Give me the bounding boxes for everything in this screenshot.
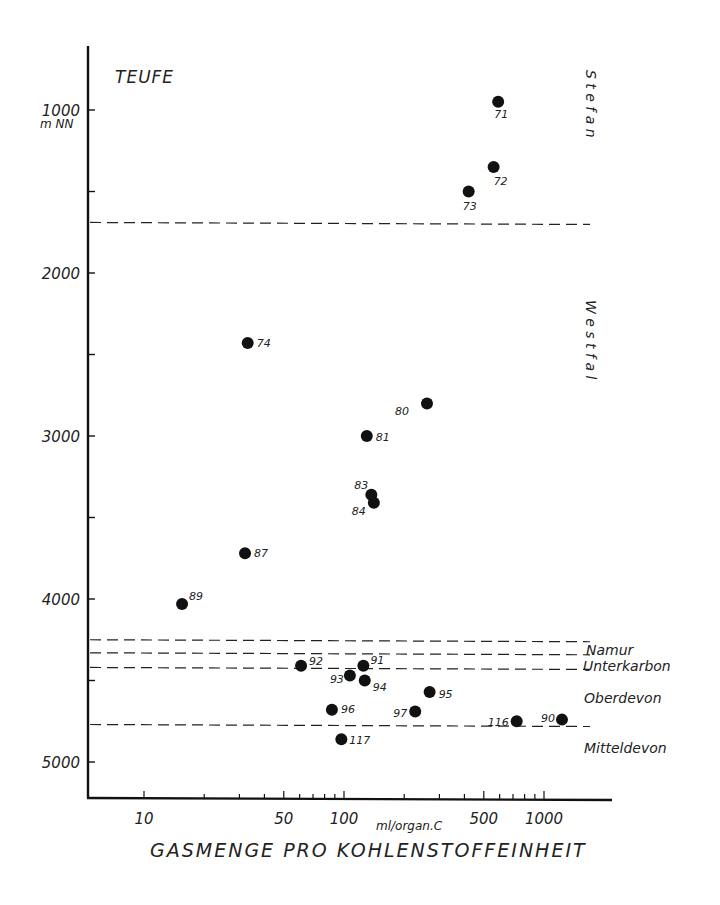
x-ticks: 10501005001000 [134,791,563,828]
depth-gas-scatter-chart: 10002000300040005000 10501005001000 7172… [0,0,720,905]
stratigraphic-boundaries [90,222,590,726]
point-marker [295,660,307,672]
y-tick-label: 2000 [42,265,80,283]
point-label: 74 [257,337,271,350]
point-marker [357,660,369,672]
point-label: 96 [341,703,355,716]
x-tick-label: 500 [469,810,498,828]
data-point-74: 74 [242,337,271,350]
x-axis-unit: ml/organ.C [376,819,443,833]
point-marker [239,547,251,559]
x-tick-label: 10 [134,810,153,828]
point-marker [421,397,433,409]
point-marker [176,598,188,610]
point-label: 92 [309,655,323,668]
x-tick-label: 1000 [525,810,563,828]
point-marker [326,704,338,716]
point-label: 97 [393,707,407,720]
point-marker [463,186,475,198]
data-point-84: 84 [352,497,380,518]
point-marker [556,714,568,726]
point-label: 93 [330,673,344,686]
point-marker [242,337,254,349]
point-label: 90 [541,712,555,725]
point-label: 87 [254,547,268,560]
stratum-label-oberdevon: Oberdevon [584,690,662,706]
point-marker [344,670,356,682]
data-point-92: 92 [295,655,323,672]
y-tick-label: 4000 [42,591,80,609]
data-point-71: 71 [492,96,508,121]
boundary-line [90,667,590,669]
point-marker [511,715,523,727]
stratum-label-mitteldevon: Mitteldevon [584,740,667,756]
point-label: 116 [488,716,509,729]
axes [87,46,612,800]
data-point-96: 96 [326,703,355,716]
point-label: 94 [373,681,387,694]
data-point-80: 80 [395,397,433,418]
data-points: 7172737480818384878992919394959697116901… [176,96,568,747]
point-marker [424,686,436,698]
data-point-95: 95 [424,686,453,701]
point-label: 89 [189,590,203,603]
point-marker [492,96,504,108]
point-label: 80 [395,405,409,418]
data-point-90: 90 [541,712,568,726]
stratum-label-stefan: S t e f a n [583,70,599,138]
data-point-81: 81 [361,430,390,444]
point-label: 71 [494,108,508,121]
y-tick-label: 3000 [42,428,80,446]
data-point-72: 72 [488,161,508,188]
y-axis-unit: m NN [40,117,73,131]
x-axis-line [87,798,612,800]
x-tick-label: 50 [274,810,293,828]
y-axis-title: TEUFE [115,67,174,87]
stratum-label-unterkarbon: Unterkarbon [583,658,671,674]
x-axis-title: GASMENGE PRO KOHLENSTOFFEINHEIT [150,839,587,861]
data-point-73: 73 [463,186,477,213]
boundary-line [90,640,590,642]
point-marker [359,675,371,687]
data-point-117: 117 [335,733,370,747]
point-marker [488,161,500,173]
point-label: 73 [463,200,477,213]
x-tick-label: 100 [330,810,359,828]
point-label: 72 [494,175,508,188]
point-label: 117 [349,734,370,747]
point-marker [361,430,373,442]
point-label: 83 [354,479,368,492]
data-point-116: 116 [488,715,523,729]
point-marker [335,733,347,745]
point-label: 84 [352,505,366,518]
point-label: 91 [370,654,384,667]
data-point-97: 97 [393,705,421,720]
data-point-93: 93 [330,670,356,686]
point-label: 95 [439,688,453,701]
point-marker [409,705,421,717]
y-tick-label: 5000 [42,754,80,772]
boundary-line [90,222,590,224]
stratum-label-westfal: W e s t f a l [583,300,599,379]
data-point-89: 89 [176,590,203,610]
data-point-94: 94 [359,675,387,694]
stratum-label-namur: Namur [586,642,635,658]
point-label: 81 [376,431,390,444]
point-marker [368,497,380,509]
boundary-line [90,653,590,655]
data-point-87: 87 [239,547,268,560]
